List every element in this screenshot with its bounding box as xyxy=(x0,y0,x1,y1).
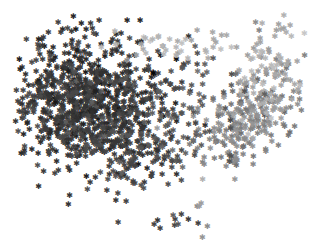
star-marker: ✱ xyxy=(238,129,245,138)
star-marker: ✱ xyxy=(35,182,42,191)
star-marker: ✱ xyxy=(228,81,235,90)
star-marker: ✱ xyxy=(140,98,147,107)
star-marker: ✱ xyxy=(63,118,70,127)
star-marker: ✱ xyxy=(145,141,152,150)
star-marker: ✱ xyxy=(194,26,201,35)
star-marker: ✱ xyxy=(38,92,45,101)
star-marker: ✱ xyxy=(23,35,30,44)
star-marker: ✱ xyxy=(126,34,133,43)
star-marker: ✱ xyxy=(94,77,101,86)
star-marker: ✱ xyxy=(89,24,96,33)
star-marker: ✱ xyxy=(143,88,150,97)
star-marker: ✱ xyxy=(170,126,177,135)
star-marker: ✱ xyxy=(218,31,225,40)
star-marker: ✱ xyxy=(99,123,106,132)
star-marker: ✱ xyxy=(165,180,172,189)
star-marker: ✱ xyxy=(241,87,248,96)
star-marker: ✱ xyxy=(61,49,68,58)
star-marker: ✱ xyxy=(202,128,209,137)
star-marker: ✱ xyxy=(201,160,208,169)
star-marker: ✱ xyxy=(194,60,201,69)
star-marker: ✱ xyxy=(145,62,152,71)
star-marker: ✱ xyxy=(112,139,119,148)
star-marker: ✱ xyxy=(112,96,119,105)
star-marker: ✱ xyxy=(37,50,44,59)
star-marker: ✱ xyxy=(128,159,135,168)
star-marker: ✱ xyxy=(104,175,111,184)
star-marker: ✱ xyxy=(40,167,47,176)
star-marker: ✱ xyxy=(227,124,234,133)
star-marker: ✱ xyxy=(101,79,108,88)
star-marker: ✱ xyxy=(52,53,59,62)
star-marker: ✱ xyxy=(70,88,77,97)
star-marker: ✱ xyxy=(280,76,287,85)
star-marker: ✱ xyxy=(58,28,65,37)
scatter-plot: ✱✱✱✱✱✱✱✱✱✱✱✱✱✱✱✱✱✱✱✱✱✱✱✱✱✱✱✱✱✱✱✱✱✱✱✱✱✱✱✱… xyxy=(0,0,312,251)
star-marker: ✱ xyxy=(107,116,114,125)
star-marker: ✱ xyxy=(145,79,152,88)
star-marker: ✱ xyxy=(234,156,241,165)
star-marker: ✱ xyxy=(255,67,262,76)
star-marker: ✱ xyxy=(268,131,275,140)
star-marker: ✱ xyxy=(71,123,78,132)
star-marker: ✱ xyxy=(199,175,206,184)
star-marker: ✱ xyxy=(199,233,206,242)
star-marker: ✱ xyxy=(178,47,185,56)
star-marker: ✱ xyxy=(112,40,119,49)
star-marker: ✱ xyxy=(186,89,193,98)
star-marker: ✱ xyxy=(179,39,186,48)
star-marker: ✱ xyxy=(48,81,55,90)
star-marker: ✱ xyxy=(33,67,40,76)
star-marker: ✱ xyxy=(53,147,60,156)
star-marker: ✱ xyxy=(199,80,206,89)
scatter-points: ✱✱✱✱✱✱✱✱✱✱✱✱✱✱✱✱✱✱✱✱✱✱✱✱✱✱✱✱✱✱✱✱✱✱✱✱✱✱✱✱… xyxy=(12,11,308,243)
star-marker: ✱ xyxy=(203,116,210,125)
star-marker: ✱ xyxy=(259,80,266,89)
star-marker: ✱ xyxy=(66,191,73,200)
star-marker: ✱ xyxy=(248,107,255,116)
star-marker: ✱ xyxy=(182,149,189,158)
star-marker: ✱ xyxy=(228,70,235,79)
star-marker: ✱ xyxy=(74,41,81,50)
star-marker: ✱ xyxy=(261,90,268,99)
star-marker: ✱ xyxy=(124,16,131,25)
star-marker: ✱ xyxy=(166,80,173,89)
star-marker: ✱ xyxy=(149,35,156,44)
star-marker: ✱ xyxy=(200,93,207,102)
star-marker: ✱ xyxy=(266,48,273,57)
star-marker: ✱ xyxy=(55,18,62,27)
star-marker: ✱ xyxy=(97,168,104,177)
star-marker: ✱ xyxy=(50,43,57,52)
star-marker: ✱ xyxy=(130,177,137,186)
star-marker: ✱ xyxy=(157,224,164,233)
star-marker: ✱ xyxy=(125,80,132,89)
star-marker: ✱ xyxy=(233,43,240,52)
star-marker: ✱ xyxy=(179,63,186,72)
star-marker: ✱ xyxy=(198,199,205,208)
star-marker: ✱ xyxy=(192,42,199,51)
star-marker: ✱ xyxy=(301,51,308,60)
star-marker: ✱ xyxy=(68,27,75,36)
star-marker: ✱ xyxy=(42,125,49,134)
star-marker: ✱ xyxy=(295,85,302,94)
star-marker: ✱ xyxy=(222,104,229,113)
star-marker: ✱ xyxy=(176,157,183,166)
star-marker: ✱ xyxy=(92,124,99,133)
star-marker: ✱ xyxy=(136,119,143,128)
star-marker: ✱ xyxy=(159,143,166,152)
star-marker: ✱ xyxy=(115,218,122,227)
star-marker: ✱ xyxy=(221,141,228,150)
star-marker: ✱ xyxy=(294,100,301,109)
star-marker: ✱ xyxy=(207,144,214,153)
star-marker: ✱ xyxy=(263,109,270,118)
star-marker: ✱ xyxy=(232,175,239,184)
star-marker: ✱ xyxy=(202,60,209,69)
star-marker: ✱ xyxy=(172,99,179,108)
star-marker: ✱ xyxy=(210,54,217,63)
star-marker: ✱ xyxy=(21,76,28,85)
star-marker: ✱ xyxy=(137,131,144,140)
star-marker: ✱ xyxy=(111,27,118,36)
star-marker: ✱ xyxy=(203,68,210,77)
star-marker: ✱ xyxy=(185,120,192,129)
star-marker: ✱ xyxy=(253,40,260,49)
